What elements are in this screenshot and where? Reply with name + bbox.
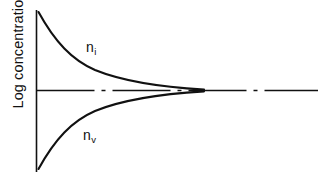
curve-label-ni: ni [86,40,96,54]
y-axis-label: Log concentration [11,0,26,109]
curve-label-nv-subscript: v [91,134,96,145]
curve-label-nv: nv [83,128,96,142]
figure-container: Log concentration ni nv [0,0,323,181]
curve-ni [39,12,205,90]
curve-nv [39,91,205,169]
curve-label-ni-symbol: n [86,39,94,55]
curve-label-nv-symbol: n [83,127,91,143]
plot-canvas [0,0,323,181]
y-axis-label-container: Log concentration [7,0,29,120]
